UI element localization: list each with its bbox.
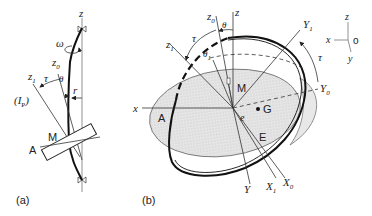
label-A-b: A — [158, 112, 166, 124]
label-Y: Y — [244, 183, 252, 195]
label-z-b: z — [234, 6, 240, 18]
label-theta: θ — [59, 74, 64, 84]
label-omega: ω — [56, 37, 64, 49]
label-z1: z1 — [27, 70, 36, 85]
label-e: e — [240, 112, 245, 123]
label-M-b: M — [237, 82, 246, 94]
tau-left-arrow-icon — [186, 30, 216, 60]
label-G: G — [263, 103, 272, 115]
rotor-dynamics-diagram: z ω z0 z1 τ θ r (IP) M A (a) — [0, 0, 372, 216]
tau-right-arrow-icon — [300, 42, 318, 82]
legend-z: z — [344, 11, 349, 22]
panel-b: z z0 θ τ z1 θ1 M G x A e E Y X1 X0 Y0 Y1… — [132, 6, 330, 206]
label-tau-right: τ — [318, 51, 323, 63]
bent-shaft — [68, 28, 82, 180]
label-tau: τ — [44, 72, 49, 84]
label-principal-axis: (IP) — [14, 94, 29, 109]
shaded-disk-plane — [144, 60, 306, 166]
panel-a: z ω z0 z1 τ θ r (IP) M A (a) — [14, 7, 100, 206]
label-Y1: Y1 — [303, 18, 313, 33]
M-marker — [227, 78, 230, 84]
label-z0-b: z0 — [206, 10, 215, 25]
panel-b-label: (b) — [142, 194, 155, 206]
label-r: r — [73, 84, 78, 96]
panel-a-label: (a) — [16, 194, 29, 206]
label-X1: X1 — [265, 180, 276, 195]
coordinate-legend: z x o y — [325, 11, 359, 64]
label-x-b: x — [132, 102, 138, 114]
label-E: E — [259, 131, 266, 143]
label-Y0: Y0 — [320, 82, 330, 97]
tau-arrow-icon — [40, 79, 60, 87]
label-A: A — [29, 144, 37, 156]
label-z: z — [78, 7, 84, 19]
legend-y: y — [347, 53, 353, 64]
G-point — [256, 107, 260, 111]
legend-o: o — [353, 35, 359, 46]
label-X0: X0 — [282, 176, 294, 191]
label-theta1: θ1 — [203, 49, 211, 62]
label-z1-b: z1 — [165, 38, 174, 53]
label-M: M — [48, 131, 57, 143]
legend-x: x — [325, 34, 331, 45]
label-z0: z0 — [51, 56, 60, 71]
label-theta-b: θ — [222, 20, 227, 30]
legend-y-line — [348, 40, 351, 52]
